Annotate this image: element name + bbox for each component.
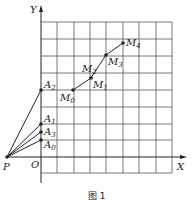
- x-axis-arrow-icon: [180, 155, 187, 159]
- point-a0-label: A0: [43, 139, 56, 152]
- point-a0: [39, 138, 43, 142]
- point-a3-label: A3: [43, 126, 56, 139]
- point-m2-label: M2: [81, 63, 97, 76]
- y-axis-arrow-icon: [39, 5, 43, 12]
- point-m0: [71, 88, 75, 92]
- point-m0-label: M0: [59, 92, 75, 105]
- origin-label: O: [31, 159, 39, 170]
- point-a1: [39, 122, 43, 126]
- y-axis-label: Y: [30, 4, 38, 15]
- point-a3: [39, 130, 43, 134]
- x-axis-label: X: [176, 161, 185, 172]
- coordinate-diagram: Y X O P A2 A1 A3 A0 M0 M1 M2 M3 M4 图 1: [0, 0, 193, 200]
- figure-caption: 图 1: [88, 191, 106, 200]
- point-p-label: P: [2, 161, 10, 172]
- rays-from-p: [7, 90, 41, 157]
- point-m3-label: M3: [107, 56, 123, 69]
- point-m4: [121, 41, 125, 45]
- point-p: [5, 155, 9, 159]
- axes: [7, 8, 184, 183]
- point-a2: [39, 88, 43, 92]
